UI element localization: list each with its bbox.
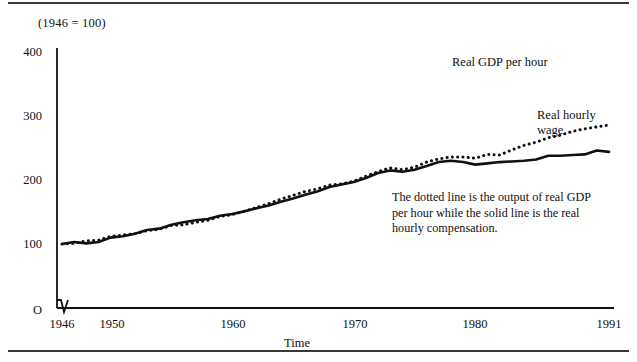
axes <box>57 48 614 312</box>
data-series <box>62 125 609 244</box>
series-line-real-gdp-per-hour <box>62 125 609 244</box>
plot-area <box>0 0 637 362</box>
series-line-real-hourly-wage <box>62 151 609 244</box>
chart-figure: (1946 = 100) 400 300 200 100 O 1946 1950… <box>0 0 637 362</box>
axis-break-symbol <box>57 300 68 312</box>
